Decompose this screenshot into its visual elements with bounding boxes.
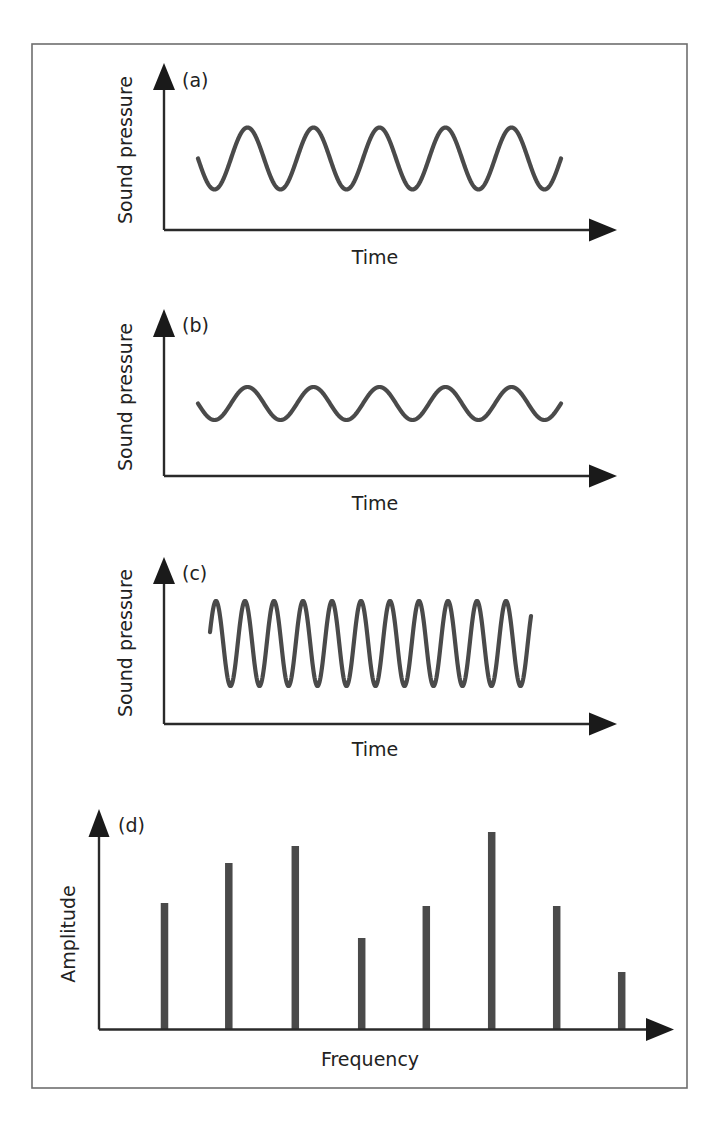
y-axis-label: Sound pressure — [114, 323, 136, 471]
spectrum-bar — [553, 906, 561, 1030]
y-axis-arrow-icon — [153, 557, 175, 584]
panel-label: (b) — [182, 314, 209, 336]
y-axis-arrow-icon — [153, 309, 175, 337]
spectrum-bar — [292, 846, 300, 1030]
waveform — [210, 601, 531, 686]
panel-label: (d) — [118, 814, 145, 836]
panel-label: (c) — [182, 562, 207, 584]
panel-c: (c) Sound pressure Time — [114, 557, 617, 760]
y-axis-label: Amplitude — [57, 885, 79, 982]
spectrum-bar — [358, 938, 366, 1030]
spectrum-bar — [488, 832, 496, 1030]
y-axis-arrow-icon — [153, 63, 175, 90]
x-axis-arrow-icon — [589, 465, 617, 488]
spectrum-bar — [161, 903, 169, 1030]
panel-b: (b) Sound pressure Time — [114, 309, 617, 514]
x-axis-arrow-icon — [589, 219, 617, 242]
x-axis-arrow-icon — [646, 1018, 674, 1041]
x-axis-label: Time — [351, 738, 399, 760]
waveform — [198, 128, 561, 190]
x-axis-label: Time — [351, 492, 399, 514]
panel-d: (d) Amplitude Frequency — [57, 809, 674, 1070]
y-axis-label: Sound pressure — [114, 569, 136, 717]
x-axis-arrow-icon — [589, 713, 617, 736]
spectrum-bars — [161, 832, 626, 1030]
panel-label: (a) — [182, 69, 208, 91]
spectrum-bar — [618, 972, 626, 1030]
waveform — [198, 387, 561, 420]
x-axis-label: Frequency — [321, 1048, 419, 1070]
figure: (a) Sound pressure Time (b) Sound pressu… — [0, 0, 717, 1132]
y-axis-label: Sound pressure — [114, 76, 136, 224]
y-axis-arrow-icon — [89, 809, 110, 837]
panel-a: (a) Sound pressure Time — [114, 63, 617, 268]
spectrum-bar — [225, 863, 233, 1030]
spectrum-bar — [423, 906, 431, 1030]
x-axis-label: Time — [351, 246, 399, 268]
